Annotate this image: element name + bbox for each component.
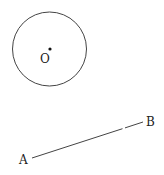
segment-ab-part1 <box>32 129 123 158</box>
segment-ab-part2 <box>125 122 143 128</box>
label-o: O <box>40 52 50 66</box>
label-a: A <box>18 153 28 167</box>
center-point-o <box>48 47 51 50</box>
label-b: B <box>146 115 155 129</box>
geometry-diagram: O A B <box>0 0 164 175</box>
